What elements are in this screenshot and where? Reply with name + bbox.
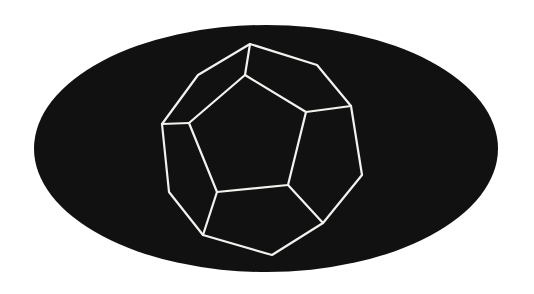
edge-spoke-5 [162,123,189,124]
diagram-canvas [0,0,534,294]
black-ellipse-backdrop [34,25,498,272]
